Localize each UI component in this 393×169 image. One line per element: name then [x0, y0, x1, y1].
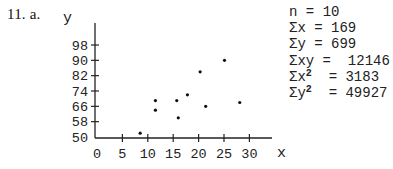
- y-tick-label: 90: [72, 54, 88, 69]
- stat-row: Σxy = 12146: [289, 53, 390, 69]
- y-tick-label: 74: [72, 85, 88, 100]
- stat-name: Σxy: [289, 53, 314, 69]
- x-axis-label: x: [277, 145, 286, 162]
- y-tick-label: 50: [72, 131, 88, 146]
- y-tick-label: 98: [72, 39, 88, 54]
- stat-value: 10: [323, 4, 340, 20]
- stat-value: 12146: [339, 53, 389, 69]
- stat-name: Σx: [289, 20, 306, 36]
- x-tick-label: 0: [93, 147, 101, 162]
- data-point: [175, 99, 178, 102]
- x-tick-label: 30: [241, 147, 257, 162]
- stat-name: Σy: [289, 85, 306, 101]
- x-axis: 051015202530 x: [93, 134, 286, 162]
- data-point: [238, 101, 241, 104]
- stat-value: 699: [331, 36, 356, 52]
- x-tick-label: 20: [190, 147, 206, 162]
- x-tick-label: 15: [165, 147, 181, 162]
- stat-value: 49927: [345, 85, 387, 101]
- stat-row: n = 10: [289, 4, 390, 20]
- y-tick-label: 82: [72, 69, 88, 84]
- y-tick-label: 66: [72, 100, 88, 115]
- stat-name: Σy: [289, 36, 306, 52]
- stat-name: Σx: [289, 69, 306, 85]
- summary-statistics: n = 10Σx = 169Σy = 699Σxy = 12146Σx2 = 3…: [289, 4, 390, 101]
- data-point: [154, 99, 157, 102]
- stat-row: Σx2 = 3183: [289, 69, 390, 85]
- data-points: [139, 59, 242, 135]
- data-point: [154, 109, 157, 112]
- x-tick-label: 5: [118, 147, 126, 162]
- stat-value: 169: [331, 20, 356, 36]
- data-point: [186, 93, 189, 96]
- stat-row: Σy = 699: [289, 36, 390, 52]
- data-point: [199, 70, 202, 73]
- data-point: [204, 105, 207, 108]
- y-tick-label: 58: [72, 115, 88, 130]
- data-point: [177, 116, 180, 119]
- stat-row: Σy2 = 49927: [289, 85, 390, 101]
- y-axis-label: y: [63, 10, 72, 27]
- x-tick-label: 10: [140, 147, 156, 162]
- x-tick-label: 25: [216, 147, 232, 162]
- stat-row: Σx = 169: [289, 20, 390, 36]
- y-axis: 50586674829098 y: [63, 10, 99, 146]
- data-point: [223, 59, 226, 62]
- stat-value: 3183: [345, 69, 379, 85]
- data-point: [139, 132, 142, 135]
